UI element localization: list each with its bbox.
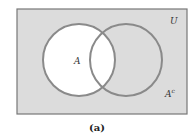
set-a-label: A (73, 56, 81, 66)
figure-caption: (a) (89, 122, 105, 133)
venn-diagram: U A Ac (a) (0, 0, 195, 139)
universe-label: U (170, 16, 178, 26)
